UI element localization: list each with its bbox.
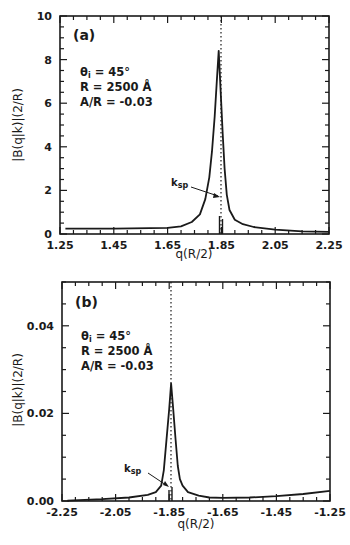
x-axis-title-a: q(R/2) <box>176 247 213 261</box>
x-tick-label: -1.45 <box>261 506 293 519</box>
arrowhead-icon <box>213 193 220 198</box>
arrowhead-icon <box>163 481 169 487</box>
panel-a: ksp (a) θi = 45° R = 2500 Å A/R = -0.03 … <box>11 10 343 261</box>
y-tick-labels-a: 0246810 <box>37 10 53 241</box>
y-tick-label: 4 <box>44 141 52 154</box>
panel-b: ksp (b) θi = 45° R = 2500 Å A/R = -0.03 … <box>11 282 346 531</box>
y-tick-label: 0.02 <box>27 407 54 420</box>
y-tick-label: 8 <box>44 54 52 67</box>
y-tick-label: 10 <box>37 10 53 23</box>
param-theta-b: θi = 45° <box>81 329 131 344</box>
y-axis-title-b: |B(q|k)|(2/R) <box>11 353 25 427</box>
data-line <box>67 384 330 501</box>
x-tick-label: 2.25 <box>315 239 342 252</box>
ksp-label-a: ksp <box>171 177 188 190</box>
param-ar-b: A/R = -0.03 <box>81 359 154 373</box>
data-curve-b <box>67 384 330 501</box>
x-tick-label: -2.05 <box>100 506 132 519</box>
y-tick-label: 0.00 <box>27 495 54 508</box>
x-tick-label: 2.05 <box>262 239 289 252</box>
panel-label-b: (b) <box>75 294 98 310</box>
y-tick-label: 0.04 <box>27 320 54 333</box>
y-axis-title-a: |B(q|k)|(2/R) <box>11 88 25 162</box>
ksp-label-b: ksp <box>124 463 141 476</box>
x-axis-title-b: q(R/2) <box>178 517 215 531</box>
y-tick-label: 6 <box>44 97 52 110</box>
y-tick-labels-b: 0.000.020.04 <box>27 320 54 508</box>
x-tick-label: -1.25 <box>314 506 346 519</box>
plot-frame-b <box>62 282 330 501</box>
y-tick-label: 2 <box>44 184 52 197</box>
param-r-b: R = 2500 Å <box>81 343 153 358</box>
y-tick-label: 0 <box>44 228 52 241</box>
plot-frame-a <box>60 16 329 234</box>
panel-label-a: (a) <box>73 27 95 43</box>
param-ar-a: A/R = -0.03 <box>80 95 153 109</box>
x-tick-label: 1.45 <box>100 239 127 252</box>
ticks-b <box>62 282 330 501</box>
ticks-a <box>60 16 329 234</box>
param-theta-a: θi = 45° <box>80 65 130 80</box>
param-r-a: R = 2500 Å <box>80 79 152 94</box>
figure: ksp (a) θi = 45° R = 2500 Å A/R = -0.03 … <box>0 0 350 545</box>
